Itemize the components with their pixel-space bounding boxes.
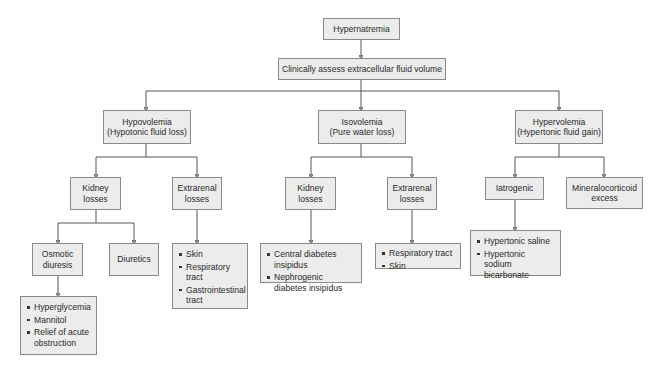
list-item: Central diabetes insipidus (267, 249, 356, 270)
list-item: Nephrogenic diabetes insipidus (267, 272, 356, 293)
node-title: Iatrogenic (496, 183, 534, 194)
node-title: Kidney (297, 183, 323, 194)
node-osmotic-diuresis: Osmotic diuresis (32, 243, 83, 276)
node-iso-kidney-losses: Kidney losses (285, 177, 336, 210)
node-iatrogenic: Iatrogenic (485, 177, 544, 200)
node-title: Kidney (82, 183, 108, 194)
node-label: Clinically assess extracellular fluid vo… (282, 64, 442, 75)
node-subtitle: (Hypotonic fluid loss) (107, 127, 187, 138)
node-title: Extrarenal (177, 183, 216, 194)
node-title: Mineralocorticoid (572, 183, 637, 194)
node-hypo-kidney-losses: Kidney losses (70, 177, 121, 210)
node-title-line2: losses (185, 194, 209, 205)
list-item: Hypertonic sodium bicarbonate (477, 249, 555, 281)
list-item: Skin (179, 249, 246, 260)
node-hypervolemia: Hypervolemia (Hypertonic fluid gain) (515, 110, 603, 144)
node-hypernatremia: Hypernatremia (323, 18, 400, 40)
node-subtitle: (Hypertonic fluid gain) (517, 127, 601, 138)
node-title: Diuretics (117, 254, 150, 265)
list-item: Hyperglycemia (27, 302, 91, 313)
list-iso-extrarenal-causes: Respiratory tract Skin (375, 243, 461, 269)
list-item: Respiratory tract (179, 262, 246, 283)
node-mineralocorticoid-excess: Mineralocorticoid excess (566, 177, 643, 209)
list-item: Skin (382, 261, 452, 272)
list-osmotic-causes: Hyperglycemia Mannitol Relief of acute o… (20, 296, 97, 355)
node-title-line2: losses (400, 194, 424, 205)
node-assess-ecf-volume: Clinically assess extracellular fluid vo… (278, 58, 446, 80)
node-title-line2: losses (298, 194, 322, 205)
list-item: Respiratory tract (382, 248, 452, 259)
node-title: Extrarenal (392, 183, 431, 194)
node-diuretics: Diuretics (109, 243, 159, 276)
node-title: Hypovolemia (122, 117, 172, 128)
node-title: Isovolemia (341, 117, 382, 128)
node-title-line2: diuresis (43, 260, 73, 271)
list-iatrogenic-causes: Hypertonic saline Hypertonic sodium bica… (470, 230, 561, 276)
list-item: Mannitol (27, 315, 91, 326)
node-label: Hypernatremia (333, 24, 389, 35)
node-title-line2: losses (83, 194, 107, 205)
node-hypovolemia: Hypovolemia (Hypotonic fluid loss) (103, 110, 191, 144)
node-isovolemia: Isovolemia (Pure water loss) (318, 110, 406, 144)
list-hypo-extrarenal-causes: Skin Respiratory tract Gastrointestinal … (172, 243, 248, 309)
list-item: Hypertonic saline (477, 236, 555, 247)
node-title-line2: excess (591, 193, 618, 204)
node-subtitle: (Pure water loss) (330, 127, 395, 138)
node-iso-extrarenal-losses: Extrarenal losses (387, 177, 437, 210)
list-item: Relief of acute obstruction (27, 327, 91, 348)
node-title: Osmotic (42, 249, 74, 260)
list-item: Gastrointestinal tract (179, 285, 246, 306)
node-hypo-extrarenal-losses: Extrarenal losses (172, 177, 222, 210)
node-title: Hypervolemia (533, 117, 586, 128)
list-iso-kidney-causes: Central diabetes insipidus Nephrogenic d… (260, 243, 362, 283)
